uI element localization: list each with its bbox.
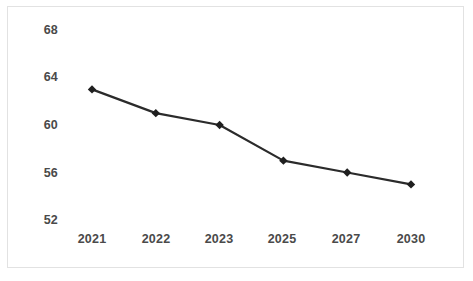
series-line-path [92,89,411,184]
data-point-marker [407,180,415,188]
x-tick-label-2021: 2021 [62,232,122,246]
line-chart-figure: 68 64 60 56 52 2021 2022 2023 2025 2027 … [0,0,473,281]
y-tick-label-60: 60 [18,118,58,132]
data-point-marker [152,109,160,117]
y-tick-label-52: 52 [18,213,58,227]
x-tick-label-2023: 2023 [189,232,249,246]
x-tick-label-2025: 2025 [252,232,312,246]
x-tick-label-2022: 2022 [126,232,186,246]
chart-plot-area: 68 64 60 56 52 2021 2022 2023 2025 2027 … [0,0,473,281]
y-tick-label-64: 64 [18,70,58,84]
data-point-marker [215,121,223,129]
series-marker-group [88,85,415,188]
x-tick-label-2030: 2030 [381,232,441,246]
y-tick-label-68: 68 [18,23,58,37]
data-point-marker [279,156,287,164]
x-tick-label-2027: 2027 [316,232,376,246]
data-point-marker [343,168,351,176]
data-point-marker [88,85,96,93]
y-tick-label-56: 56 [18,166,58,180]
